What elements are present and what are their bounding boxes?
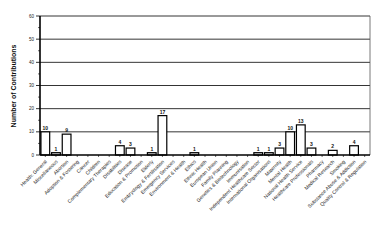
y-tick-label: 50	[29, 37, 35, 42]
value-label: 3	[129, 141, 132, 147]
y-tick-label: 20	[29, 106, 35, 111]
value-label: 1	[193, 146, 196, 152]
value-label: 10	[287, 125, 293, 131]
value-label: 1	[267, 146, 270, 152]
bar	[115, 146, 124, 155]
value-label: 13	[298, 118, 304, 124]
bar	[41, 132, 50, 155]
y-tick-label: 10	[29, 129, 35, 134]
bar	[275, 148, 284, 155]
axes	[40, 16, 370, 157]
value-label: 1	[257, 146, 260, 152]
bar	[158, 116, 167, 155]
bar-chart: 0102030405060 Health: GeneralMiscellaneo…	[0, 0, 378, 248]
value-label: 4	[118, 139, 121, 145]
bar	[126, 148, 135, 155]
value-label: 9	[65, 127, 68, 133]
y-ticks: 0102030405060	[29, 14, 40, 158]
bar	[62, 134, 71, 155]
y-tick-label: 30	[29, 83, 35, 88]
y-axis-title: Number of Contributions	[10, 44, 17, 127]
value-labels: 10194311711131013324	[43, 109, 356, 152]
value-label: 1	[150, 146, 153, 152]
value-label: 1	[55, 146, 58, 152]
bar	[350, 146, 359, 155]
bar	[307, 148, 316, 155]
value-label: 3	[310, 141, 313, 147]
y-tick-label: 0	[31, 153, 34, 158]
bars	[41, 116, 358, 155]
value-label: 2	[331, 143, 334, 149]
value-label: 17	[160, 109, 166, 115]
gridlines	[40, 16, 370, 132]
y-tick-label: 40	[29, 60, 35, 65]
value-label: 3	[278, 141, 281, 147]
value-label: 10	[43, 125, 49, 131]
y-tick-label: 60	[29, 14, 35, 19]
bar	[296, 125, 305, 155]
x-tick-labels: Health: GeneralMiscellaneousAbortionAdop…	[19, 158, 368, 212]
value-label: 4	[353, 139, 356, 145]
bar	[286, 132, 295, 155]
